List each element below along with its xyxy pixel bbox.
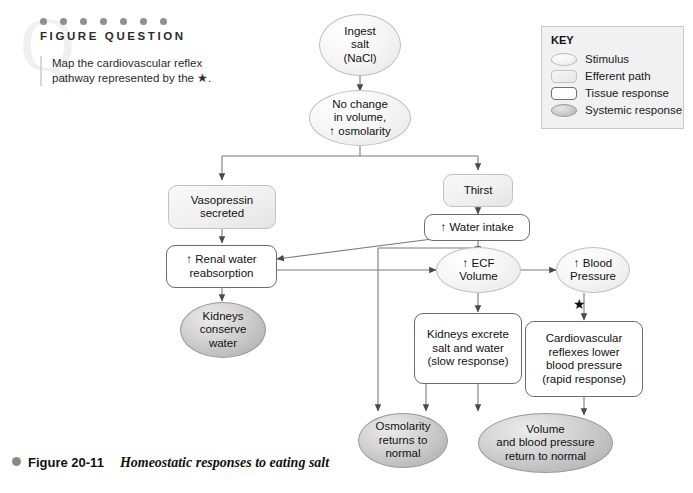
dot xyxy=(120,18,127,25)
node-renal-water-reabsorption: ↑ Renal waterreabsorption xyxy=(166,245,277,288)
figure-question-text: Map the cardiovascular reflex pathway re… xyxy=(40,56,218,86)
asterisk-marker: ★ xyxy=(573,296,586,312)
dot xyxy=(140,18,147,25)
node-label: ↑ ECFVolume xyxy=(456,257,500,284)
key-item-tissue-response: Tissue response xyxy=(551,85,675,101)
key-item-efferent-path: Efferent path xyxy=(551,68,675,84)
node-label: Osmolarityreturns tonormal xyxy=(373,420,434,461)
node-label: No changein volume,↑ osmolarity xyxy=(326,98,393,139)
figure-question-dots xyxy=(28,18,218,25)
dot xyxy=(160,18,167,25)
systemic-response-swatch-icon xyxy=(551,104,577,117)
node-label: Kidneys excretesalt and water(slow respo… xyxy=(424,328,512,369)
node-blood-pressure: ↑ BloodPressure xyxy=(556,247,630,293)
node-vasopressin-secreted: Vasopressinsecreted xyxy=(168,185,276,229)
key-item-systemic-response: Systemic response xyxy=(551,102,675,118)
node-water-intake: ↑ Water intake xyxy=(424,214,530,241)
key-item-label: Tissue response xyxy=(585,87,669,99)
node-label: Thirst xyxy=(461,184,496,198)
node-cardiovascular-reflexes: Cardiovascularreflexes lowerblood pressu… xyxy=(525,321,643,397)
node-ecf-volume: ↑ ECFVolume xyxy=(436,247,521,293)
node-kidneys-conserve-water: Kidneysconservewater xyxy=(180,302,266,358)
key-item-stimulus: Stimulus xyxy=(551,51,675,67)
node-label: Ingestsalt(NaCl) xyxy=(340,25,379,66)
caption-title: Homeostatic responses to eating salt xyxy=(120,455,329,471)
node-label: ↑ Water intake xyxy=(437,221,516,235)
node-label: ↑ Renal waterreabsorption xyxy=(183,253,259,280)
node-label: Kidneysconservewater xyxy=(197,310,250,351)
figure-question-heading: FIGURE QUESTION xyxy=(28,30,218,42)
node-no-change-osmolarity: No changein volume,↑ osmolarity xyxy=(309,90,411,146)
key-item-label: Stimulus xyxy=(585,53,629,65)
tissue-response-swatch-icon xyxy=(551,87,577,100)
dot xyxy=(60,18,67,25)
key-title: KEY xyxy=(551,34,675,46)
node-label: ↑ BloodPressure xyxy=(567,257,619,284)
node-osmolarity-returns-normal: Osmolarityreturns tonormal xyxy=(358,413,448,468)
node-ingest-salt: Ingestsalt(NaCl) xyxy=(319,14,401,76)
key-item-label: Systemic response xyxy=(585,104,682,116)
node-label: Cardiovascularreflexes lowerblood pressu… xyxy=(539,332,629,386)
caption-number: Figure 20-11 xyxy=(28,455,104,470)
dot xyxy=(80,18,87,25)
key-item-label: Efferent path xyxy=(585,70,651,82)
efferent-path-swatch-icon xyxy=(551,70,577,83)
node-kidneys-excrete-salt-water: Kidneys excretesalt and water(slow respo… xyxy=(414,313,522,384)
stimulus-swatch-icon xyxy=(551,53,577,66)
dot xyxy=(40,18,47,25)
node-thirst: Thirst xyxy=(443,174,513,207)
key-legend: KEY Stimulus Efferent path Tissue respon… xyxy=(541,26,684,129)
dot xyxy=(100,18,107,25)
node-label: Vasopressinsecreted xyxy=(188,194,256,221)
node-volume-bp-return-normal: Volumeand blood pressurereturn to normal xyxy=(478,413,613,473)
caption-bullet-icon xyxy=(12,457,21,466)
figure-question-block: Q FIGURE QUESTION Map the cardiovascular… xyxy=(28,18,218,86)
figure-caption: Figure 20-11 Homeostatic responses to ea… xyxy=(12,455,329,471)
node-label: Volumeand blood pressurereturn to normal xyxy=(493,423,597,464)
